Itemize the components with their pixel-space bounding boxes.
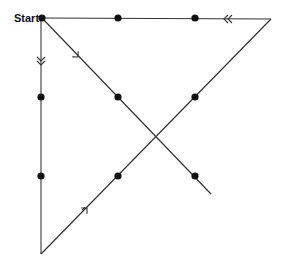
arrow-chevron-down-right-icon [72,51,81,59]
dot-r1c3 [191,14,198,21]
start-label: Start [14,12,39,24]
dot-r1c2 [114,14,121,21]
path-line-diagonal-up [41,19,271,254]
dot-r3c1 [37,172,44,179]
dot-r2c2 [114,93,121,100]
path-line-top [42,18,271,19]
dot-r3c2 [114,172,121,179]
dot-r2c3 [191,93,198,100]
dot-r2c1 [37,93,44,100]
dot-r1c1 [38,14,45,21]
nine-dot-diagram: Start [0,0,285,271]
arrow-up-right-icon [81,205,90,214]
dot-r3c3 [191,172,198,179]
